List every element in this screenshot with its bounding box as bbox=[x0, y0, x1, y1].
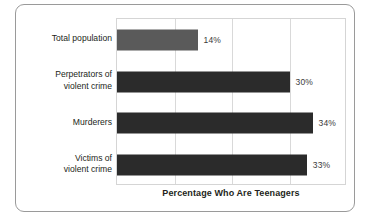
plot-area: 14%30%34%33% bbox=[116, 18, 346, 185]
bar-victims-of-violent-crime[interactable] bbox=[117, 155, 307, 176]
bar-perpetrators-of-violent-crime[interactable] bbox=[117, 71, 290, 92]
chart-figure: Total population Perpetrators of violent… bbox=[15, 4, 355, 212]
category-label-total-population: Total population bbox=[24, 18, 112, 60]
bar-row: 30% bbox=[117, 61, 345, 103]
category-label-line1: Perpetrators of bbox=[55, 69, 112, 81]
x-axis-title: Percentage Who Are Teenagers bbox=[116, 188, 346, 198]
category-label-line2: violent crime bbox=[55, 81, 112, 93]
bar-murderers[interactable] bbox=[117, 113, 313, 134]
bar-value-label: 30% bbox=[296, 77, 314, 87]
category-label-line1: Total population bbox=[52, 33, 112, 45]
category-label-victims-of-violent-crime: Victims of violent crime bbox=[24, 143, 112, 185]
bar-value-label: 14% bbox=[204, 35, 222, 45]
category-label-perpetrators-of-violent-crime: Perpetrators of violent crime bbox=[24, 60, 112, 102]
category-label-line2: violent crime bbox=[64, 164, 112, 176]
bar-rows: 14%30%34%33% bbox=[117, 19, 345, 184]
bar-value-label: 33% bbox=[313, 160, 331, 170]
category-label-murderers: Murderers bbox=[24, 102, 112, 144]
category-label-line1: Murderers bbox=[73, 117, 112, 129]
category-axis-labels: Total population Perpetrators of violent… bbox=[24, 18, 112, 185]
bar-row: 33% bbox=[117, 144, 345, 186]
bar-row: 34% bbox=[117, 103, 345, 145]
bar-value-label: 34% bbox=[319, 118, 337, 128]
bar-row: 14% bbox=[117, 19, 345, 61]
bar-total-population[interactable] bbox=[117, 29, 198, 50]
category-label-line1: Victims of bbox=[64, 153, 112, 165]
